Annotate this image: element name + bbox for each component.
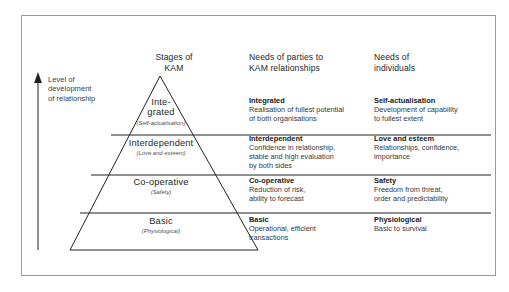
parties-need-integrated: Integrated Realisation of fullest potent…	[249, 96, 369, 124]
need-body: Freedom from threat, order and predictab…	[374, 186, 488, 204]
tier-subtitle: (Love and esteem)	[104, 149, 218, 157]
need-body: Confidence in relationship, stable and h…	[249, 144, 369, 171]
need-body: Operational, efficient transactions	[249, 225, 369, 243]
individual-need-love-and-esteem: Love and esteem Relationships, confidenc…	[374, 134, 488, 162]
need-title: Co-operative	[249, 176, 369, 185]
tier-name: Co-operative	[92, 177, 230, 187]
parties-need-basic: Basic Operational, efficient transaction…	[249, 215, 369, 243]
need-title: Love and esteem	[374, 134, 488, 143]
tier-subtitle: (Self-actualisation)	[128, 119, 194, 127]
need-body: Basic to survival	[374, 225, 488, 234]
individual-need-physiological: Physiological Basic to survival	[374, 215, 488, 234]
need-body: Relationships, confidence, importance	[374, 144, 488, 162]
tier-label-basic: Basic (Physiological)	[78, 216, 244, 235]
parties-need-interdependent: Interdependent Confidence in relationshi…	[249, 134, 369, 170]
need-title: Basic	[249, 215, 369, 224]
need-body: Realisation of fullest potential of both…	[249, 106, 369, 124]
need-title: Integrated	[249, 96, 369, 105]
tier-label-interdependent: Interdependent (Love and esteem)	[104, 138, 218, 157]
tier-label-integrated: Inte- grated (Self-actualisation)	[128, 97, 194, 127]
need-title: Self-actualisation	[374, 96, 488, 105]
need-title: Interdependent	[249, 134, 369, 143]
tier-name: Inte- grated	[128, 97, 194, 118]
need-title: Physiological	[374, 215, 488, 224]
kam-pyramid-figure: Stages of KAM Needs of parties to KAM re…	[0, 0, 509, 292]
need-body: Development of capability to fullest ext…	[374, 106, 488, 124]
tier-name: Interdependent	[104, 138, 218, 148]
tier-subtitle: (Safety)	[92, 188, 230, 196]
individual-need-self-actualisation: Self-actualisation Development of capabi…	[374, 96, 488, 124]
individual-need-safety: Safety Freedom from threat, order and pr…	[374, 176, 488, 204]
need-body: Reduction of risk, ability to forecast	[249, 186, 369, 204]
tier-name: Basic	[78, 216, 244, 226]
tier-subtitle: (Physiological)	[78, 227, 244, 235]
need-title: Safety	[374, 176, 488, 185]
tier-label-co-operative: Co-operative (Safety)	[92, 177, 230, 196]
parties-need-co-operative: Co-operative Reduction of risk, ability …	[249, 176, 369, 204]
